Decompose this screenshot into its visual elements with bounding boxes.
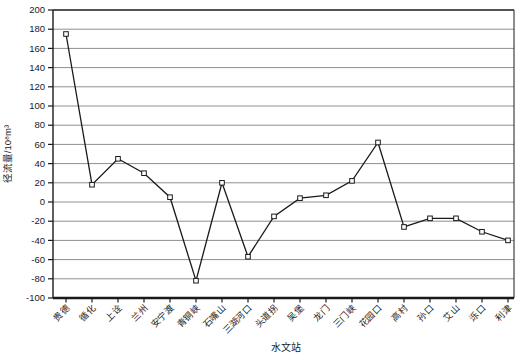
- data-series-layer: [64, 32, 511, 283]
- y-tick-label: -80: [31, 273, 45, 284]
- x-tick-label: 吴堡: [285, 303, 306, 324]
- tick-labels-layer: 200180160140120100806040200-20-40-60-80-…: [26, 4, 513, 336]
- data-point-marker: [116, 157, 121, 162]
- data-point-marker: [246, 254, 251, 259]
- data-point-marker: [194, 278, 199, 283]
- y-tick-label: 100: [29, 100, 45, 111]
- x-tick-label: 花园口: [357, 303, 384, 330]
- data-point-marker: [64, 32, 69, 37]
- x-tick-label: 孙口: [415, 303, 436, 324]
- x-tick-label: 泺口: [467, 303, 488, 324]
- y-tick-label: -60: [31, 254, 45, 265]
- x-tick-label: 贵德: [51, 303, 72, 324]
- y-tick-label: 20: [34, 177, 45, 188]
- y-tick-label: 40: [34, 158, 45, 169]
- data-point-marker: [454, 216, 459, 221]
- y-tick-label: -20: [31, 215, 45, 226]
- y-tick-label: 60: [34, 139, 45, 150]
- x-tick-label: 龙门: [311, 303, 332, 324]
- data-point-marker: [324, 193, 329, 198]
- x-tick-label: 艾山: [442, 303, 462, 323]
- runoff-line-chart-figure: 200180160140120100806040200-20-40-60-80-…: [0, 0, 520, 363]
- x-tick-label: 利津: [493, 303, 514, 324]
- x-tick-label: 三湖河口: [220, 303, 253, 336]
- data-point-marker: [298, 196, 303, 201]
- y-tick-label: 160: [29, 43, 45, 54]
- chart-canvas: 200180160140120100806040200-20-40-60-80-…: [0, 0, 520, 363]
- runoff-series-line: [66, 34, 508, 281]
- data-point-marker: [272, 214, 277, 219]
- data-point-marker: [480, 229, 485, 234]
- x-tick-label: 安宁渡: [149, 303, 176, 330]
- data-point-marker: [220, 181, 225, 186]
- data-point-marker: [506, 238, 511, 243]
- y-tick-label: -40: [31, 235, 45, 246]
- data-point-marker: [90, 182, 95, 187]
- x-tick-label: 青铜峡: [175, 303, 202, 330]
- x-tick-label: 兰州: [129, 303, 150, 324]
- y-axis-title: 径流量/10⁸m³: [2, 125, 13, 183]
- y-tick-label: 80: [34, 119, 45, 130]
- x-axis-title: 水文站: [271, 341, 301, 353]
- y-tick-label: -100: [26, 292, 45, 303]
- data-point-marker: [168, 195, 173, 200]
- y-tick-label: 180: [29, 23, 45, 34]
- data-point-marker: [350, 179, 355, 184]
- y-tick-label: 0: [40, 196, 45, 207]
- y-tick-label: 140: [29, 62, 45, 73]
- x-tick-label: 高村: [389, 303, 410, 324]
- y-tick-label: 120: [29, 81, 45, 92]
- x-tick-label: 循化: [77, 303, 98, 324]
- gridlines-layer: [53, 29, 514, 279]
- data-point-marker: [402, 225, 407, 230]
- data-point-marker: [142, 171, 147, 176]
- data-point-marker: [428, 216, 433, 221]
- x-tick-label: 三门峡: [331, 303, 358, 330]
- x-tick-label: 头道拐: [253, 303, 280, 330]
- x-tick-label: 上诠: [103, 303, 124, 324]
- y-tick-label: 200: [29, 4, 45, 15]
- data-point-marker: [376, 140, 381, 145]
